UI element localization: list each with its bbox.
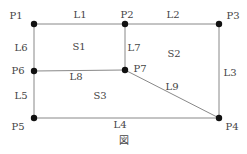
- point-p7: [122, 67, 128, 73]
- region-label: S3: [93, 91, 106, 101]
- line-label: L5: [14, 91, 27, 101]
- point-label: P2: [120, 10, 133, 20]
- point-label: P4: [225, 122, 238, 132]
- line-label: L6: [14, 43, 27, 53]
- figure-caption: 図: [119, 136, 129, 146]
- line-label: L4: [113, 120, 126, 130]
- point-label: P3: [226, 11, 239, 21]
- region-label: S2: [167, 49, 180, 59]
- diagram-canvas: [0, 0, 247, 154]
- point-p1: [31, 21, 37, 27]
- line-l9: [125, 70, 219, 118]
- point-label: P7: [133, 64, 146, 74]
- point-p3: [216, 21, 222, 27]
- line-label: L2: [166, 10, 179, 20]
- line-label: L1: [73, 10, 86, 20]
- region-label: S1: [72, 42, 85, 52]
- line-label: L8: [69, 72, 82, 82]
- point-label: P5: [11, 122, 24, 132]
- point-p4: [216, 115, 222, 121]
- line-label: L3: [223, 68, 236, 78]
- line-label: L7: [127, 43, 140, 53]
- point-label: P1: [9, 11, 22, 21]
- line-label: L9: [165, 82, 178, 92]
- point-p2: [122, 21, 128, 27]
- point-p5: [31, 115, 37, 121]
- point-label: P6: [11, 66, 24, 76]
- point-p6: [31, 68, 37, 74]
